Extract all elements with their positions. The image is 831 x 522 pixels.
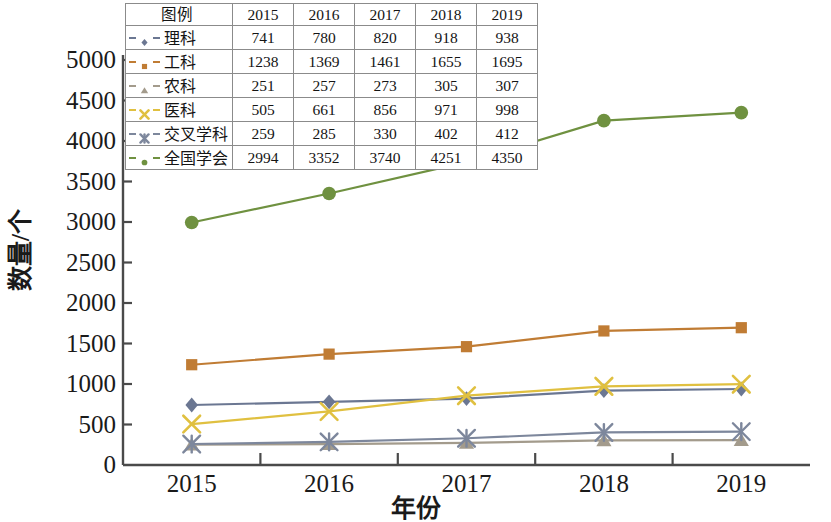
legend-value-cell: 305 bbox=[416, 73, 477, 97]
diamond-glyph bbox=[141, 39, 147, 46]
legend-value-cell: 307 bbox=[477, 73, 538, 97]
square-glyph bbox=[142, 64, 147, 69]
legend-series-label: 全国学会 bbox=[164, 150, 228, 167]
legend-value-cell: 273 bbox=[355, 73, 416, 97]
legend-line-left bbox=[129, 37, 136, 39]
legend-header-year: 2017 bbox=[355, 4, 416, 26]
legend-value-cell: 1695 bbox=[477, 49, 538, 73]
legend-value-cell: 3740 bbox=[355, 145, 416, 169]
circle-icon bbox=[139, 153, 150, 164]
legend-line-right bbox=[153, 109, 160, 111]
legend-data-table: 图例20152016201720182019 理科741780820918938… bbox=[125, 3, 538, 170]
marker-全国学会 bbox=[734, 106, 748, 120]
legend-table-row: 医科505661856971998 bbox=[126, 97, 538, 121]
legend-table-row: 农科251257273305307 bbox=[126, 73, 538, 97]
legend-table-body: 理科741780820918938工科12381369146116551695农… bbox=[126, 26, 538, 170]
legend-value-cell: 741 bbox=[233, 26, 294, 50]
square-icon bbox=[139, 57, 150, 68]
legend-value-cell: 4251 bbox=[416, 145, 477, 169]
legend-value-cell: 918 bbox=[416, 26, 477, 50]
line-chart: 数量/个 年份 50004500400035003000250020001500… bbox=[0, 0, 831, 522]
legend-value-cell: 4350 bbox=[477, 145, 538, 169]
legend-value-cell: 856 bbox=[355, 97, 416, 121]
legend-table-row: 工科12381369146116551695 bbox=[126, 49, 538, 73]
marker-工科 bbox=[736, 322, 747, 333]
legend-line-left bbox=[129, 157, 136, 159]
marker-全国学会 bbox=[597, 114, 611, 128]
legend-value-cell: 938 bbox=[477, 26, 538, 50]
legend-table-row: 全国学会29943352374042514350 bbox=[126, 145, 538, 169]
legend-header-year: 2018 bbox=[416, 4, 477, 26]
legend-line-right bbox=[153, 37, 160, 39]
legend-value-cell: 1461 bbox=[355, 49, 416, 73]
legend-table-head: 图例20152016201720182019 bbox=[126, 4, 538, 26]
legend-series-label: 理科 bbox=[164, 30, 196, 47]
legend-line-right bbox=[153, 157, 160, 159]
legend-key-医科 bbox=[129, 105, 160, 116]
legend-series-label: 农科 bbox=[164, 78, 196, 95]
x-axis-ticks bbox=[260, 453, 672, 465]
legend-value-cell: 257 bbox=[294, 73, 355, 97]
legend-key-交叉学科 bbox=[129, 129, 160, 140]
diamond-icon bbox=[139, 33, 150, 44]
legend-series-label: 交叉学科 bbox=[164, 126, 228, 143]
legend-value-cell: 1369 bbox=[294, 49, 355, 73]
legend-line-right bbox=[153, 85, 160, 87]
legend-series-name-cell: 工科 bbox=[126, 49, 233, 73]
legend-value-cell: 971 bbox=[416, 97, 477, 121]
marker-工科 bbox=[598, 325, 609, 336]
legend-value-cell: 330 bbox=[355, 121, 416, 145]
legend-series-name-cell: 农科 bbox=[126, 73, 233, 97]
legend-value-cell: 820 bbox=[355, 26, 416, 50]
legend-line-right bbox=[153, 61, 160, 63]
legend-series-name-cell: 交叉学科 bbox=[126, 121, 233, 145]
legend-series-name-cell: 医科 bbox=[126, 97, 233, 121]
legend-value-cell: 251 bbox=[233, 73, 294, 97]
legend-line-left bbox=[129, 133, 136, 135]
legend-header-year: 2015 bbox=[233, 4, 294, 26]
x-icon bbox=[139, 105, 150, 116]
legend-value-cell: 1655 bbox=[416, 49, 477, 73]
legend-series-name-cell: 全国学会 bbox=[126, 145, 233, 169]
legend-value-cell: 3352 bbox=[294, 145, 355, 169]
legend-value-cell: 402 bbox=[416, 121, 477, 145]
series-工科 bbox=[186, 322, 747, 370]
marker-理科 bbox=[185, 398, 198, 413]
legend-key-全国学会 bbox=[129, 153, 160, 164]
legend-line-left bbox=[129, 61, 136, 63]
legend-header-year: 2019 bbox=[477, 4, 538, 26]
legend-key-理科 bbox=[129, 33, 160, 44]
marker-工科 bbox=[461, 341, 472, 352]
legend-header-label: 图例 bbox=[126, 4, 233, 26]
marker-全国学会 bbox=[185, 216, 199, 230]
marker-工科 bbox=[186, 359, 197, 370]
legend-series-label: 医科 bbox=[164, 102, 196, 119]
asterisk-glyph bbox=[140, 134, 148, 142]
asterisk-icon bbox=[139, 129, 150, 140]
legend-line-left bbox=[129, 85, 136, 87]
legend-value-cell: 661 bbox=[294, 97, 355, 121]
legend-value-cell: 259 bbox=[233, 121, 294, 145]
legend-line-right bbox=[153, 133, 160, 135]
legend-table-row: 理科741780820918938 bbox=[126, 26, 538, 50]
legend-line-left bbox=[129, 109, 136, 111]
circle-glyph bbox=[142, 159, 148, 165]
legend-series-label: 工科 bbox=[164, 54, 196, 71]
legend-header-year: 2016 bbox=[294, 4, 355, 26]
triangle-icon bbox=[139, 81, 150, 92]
legend-value-cell: 780 bbox=[294, 26, 355, 50]
legend-key-工科 bbox=[129, 57, 160, 68]
legend-header-row: 图例20152016201720182019 bbox=[126, 4, 538, 26]
legend-value-cell: 2994 bbox=[233, 145, 294, 169]
legend-value-cell: 998 bbox=[477, 97, 538, 121]
legend-key-农科 bbox=[129, 81, 160, 92]
marker-全国学会 bbox=[322, 187, 336, 201]
legend-value-cell: 412 bbox=[477, 121, 538, 145]
legend-series-name-cell: 理科 bbox=[126, 26, 233, 50]
legend-table-row: 交叉学科259285330402412 bbox=[126, 121, 538, 145]
legend-value-cell: 285 bbox=[294, 121, 355, 145]
x-glyph bbox=[140, 110, 148, 118]
triangle-glyph bbox=[141, 87, 148, 93]
legend-value-cell: 505 bbox=[233, 97, 294, 121]
legend-value-cell: 1238 bbox=[233, 49, 294, 73]
